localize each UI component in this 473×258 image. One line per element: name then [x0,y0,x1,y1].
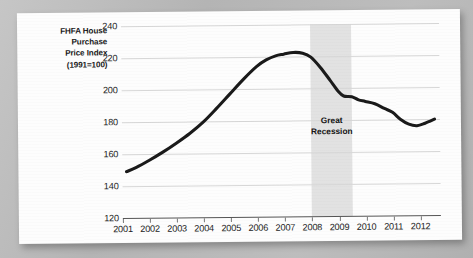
y-axis-tick-label: 200 [103,85,118,95]
y-axis-tick-label: 120 [104,213,119,223]
y-axis-tick-label: 240 [102,21,117,31]
y-axis-tick-label: 180 [103,117,118,127]
x-axis-tick-label: 2011 [384,221,403,231]
y-axis-title-line-1: FHFA House [23,25,107,37]
x-axis-tick-label: 2001 [113,224,133,234]
x-axis-tick-mark [393,217,394,221]
y-axis-tick-label: 220 [103,53,118,63]
x-axis-tick-label: 2006 [248,223,268,233]
y-axis-title-line-4: (1991=100) [23,59,107,71]
x-axis-tick-mark [123,219,124,223]
x-axis-tick-mark [366,217,367,221]
x-axis-tick-mark [312,217,313,221]
line-series-svg [121,23,441,218]
x-axis-tick-label: 2010 [357,222,377,232]
x-axis-tick-mark [339,217,340,221]
x-axis-tick-label: 2012 [411,221,431,231]
x-axis-tick-label: 2008 [303,222,323,232]
y-axis-tick-label: 140 [104,181,119,191]
y-axis-title: FHFA House Purchase Price Index (1991=10… [23,25,107,71]
chart-card-inner: FHFA House Purchase Price Index (1991=10… [17,9,462,244]
x-axis-tick-label: 2004 [194,223,214,233]
recession-band-label-line: Recession [311,126,353,137]
x-axis-tick-mark [177,219,178,223]
x-axis-tick-mark [231,218,232,222]
recession-band-label: GreatRecession [311,115,353,136]
plot-area: 240220200180160140120 GreatRecession 200… [121,23,441,218]
recession-band-label-line: Great [311,115,353,126]
x-axis-tick-label: 2009 [330,222,350,232]
x-axis-tick-mark [204,218,205,222]
x-axis-tick-label: 2007 [275,222,295,232]
x-axis-tick-label: 2005 [221,223,241,233]
x-axis-tick-mark [285,218,286,222]
screenshot-root: FHFA House Purchase Price Index (1991=10… [0,0,473,258]
line-series-path [125,51,435,172]
y-axis-tick-label: 160 [103,149,118,159]
x-axis-tick-label: 2003 [167,224,187,234]
x-axis-tick-mark [258,218,259,222]
x-axis-tick-mark [150,219,151,223]
x-axis-tick-label: 2002 [140,224,160,234]
x-axis-tick-mark [421,216,422,220]
y-axis-title-line-2: Purchase [23,36,107,48]
chart-card: FHFA House Purchase Price Index (1991=10… [17,9,462,244]
y-axis-title-line-3: Price Index [23,48,107,60]
